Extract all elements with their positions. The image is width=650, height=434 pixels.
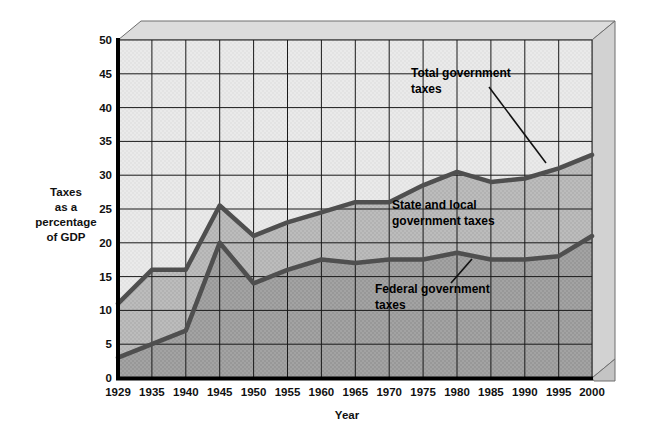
x-tick-label: 1935 [139,386,165,398]
y-axis-title: Taxes as a percentage of GDP [35,186,96,243]
y-tick-label: 20 [99,237,112,249]
x-tick-label: 1985 [478,386,504,398]
annotation-federal-line-2: taxes [375,298,406,312]
x-tick-label: 1960 [309,386,335,398]
annotation-federal-line-1: Federal government [375,282,490,296]
x-tick-label: 1950 [241,386,267,398]
y-tick-label: 45 [99,68,112,80]
chart-3d-right-face [592,21,615,378]
annotation-state-local-line-2: government taxes [392,214,495,228]
x-tick-labels: 1929 1935 1940 1945 1950 1955 1960 1965 … [105,386,605,398]
x-tick-label: 1955 [275,386,301,398]
y-tick-label: 40 [99,102,112,114]
x-tick-label: 1975 [410,386,436,398]
y-axis-title-line: as a [55,201,78,213]
x-tick-label: 1995 [546,386,572,398]
y-tick-labels: 50 45 40 35 30 25 20 15 10 5 0 [99,34,112,384]
y-tick-label: 15 [99,271,112,283]
x-tick-label: 1980 [444,386,470,398]
y-axis-title-line: percentage [35,216,96,228]
y-tick-label: 25 [99,203,112,215]
tax-gdp-area-chart: 50 45 40 35 30 25 20 15 10 5 0 1929 1935… [0,0,650,434]
x-tick-label: 2000 [579,386,605,398]
chart-container: 50 45 40 35 30 25 20 15 10 5 0 1929 1935… [0,0,650,434]
x-tick-label: 1970 [376,386,402,398]
x-tick-label: 1940 [173,386,199,398]
annotation-total-line-1: Total government [411,66,511,80]
annotation-total-line-2: taxes [411,82,442,96]
x-tick-label: 1929 [105,386,131,398]
y-tick-label: 50 [99,34,112,46]
y-axis-title-line: of GDP [47,231,86,243]
annotation-state-local-line-1: State and local [392,198,477,212]
y-tick-label: 0 [106,372,112,384]
y-tick-label: 35 [99,135,112,147]
x-tick-label: 1990 [512,386,538,398]
x-axis-title: Year [335,409,360,421]
x-tick-label: 1965 [343,386,369,398]
y-tick-label: 5 [106,338,113,350]
y-tick-label: 10 [99,304,112,316]
x-tick-label: 1945 [207,386,233,398]
y-axis-title-line: Taxes [50,186,82,198]
chart-3d-top-face [118,21,615,40]
y-tick-label: 30 [99,169,112,181]
